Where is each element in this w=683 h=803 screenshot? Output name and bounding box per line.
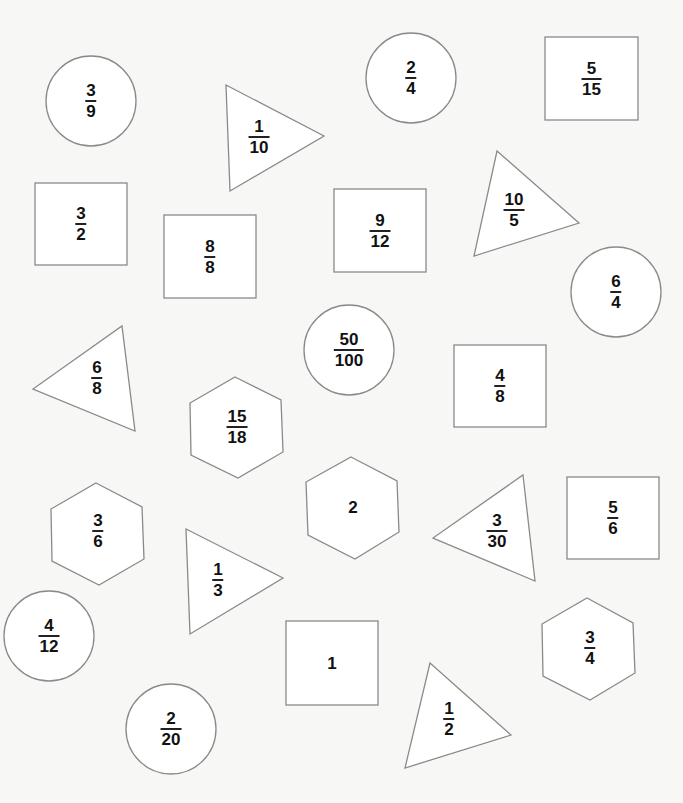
fraction-shapes-worksheet: 3911024515328891210564501006848151823633… (0, 0, 683, 803)
fraction-label: 220 (161, 710, 182, 748)
fraction-label: 1518 (227, 408, 248, 446)
denominator: 8 (204, 259, 215, 276)
fraction-label: 12 (443, 700, 454, 738)
numerator: 15 (227, 408, 248, 425)
triangle-shape (186, 529, 283, 634)
denominator: 4 (610, 294, 621, 311)
fraction-label: 50100 (334, 331, 364, 369)
numerator: 6 (91, 359, 102, 376)
fraction-label: 330 (487, 512, 508, 550)
numerator: 2 (347, 499, 358, 516)
numerator: 1 (443, 700, 454, 717)
denominator: 8 (494, 388, 505, 405)
denominator: 12 (370, 233, 391, 250)
numerator: 3 (491, 512, 502, 529)
fraction-label: 24 (405, 59, 416, 97)
numerator: 4 (43, 617, 54, 634)
fraction-label: 34 (584, 629, 595, 667)
denominator: 12 (39, 638, 60, 655)
fraction-label: 48 (494, 367, 505, 405)
triangle-shape (474, 151, 579, 256)
fraction-label: 515 (581, 60, 602, 98)
fraction-label: 110 (249, 118, 270, 156)
numerator: 3 (75, 205, 86, 222)
numerator: 5 (586, 60, 597, 77)
numerator: 3 (584, 629, 595, 646)
denominator: 2 (75, 226, 86, 243)
denominator: 9 (85, 103, 96, 120)
fraction-label: 412 (39, 617, 60, 655)
denominator: 4 (405, 80, 416, 97)
denominator: 6 (92, 533, 103, 550)
numerator: 9 (374, 212, 385, 229)
numerator: 2 (165, 710, 176, 727)
numerator: 50 (339, 331, 360, 348)
corner-mark (2, 796, 14, 800)
fraction-label: 105 (504, 191, 525, 229)
denominator: 30 (487, 533, 508, 550)
numerator: 2 (405, 59, 416, 76)
numerator: 3 (92, 512, 103, 529)
denominator: 5 (508, 212, 519, 229)
fraction-label: 36 (92, 512, 103, 550)
denominator: 20 (161, 731, 182, 748)
triangle-shape (226, 85, 324, 191)
denominator: 6 (607, 520, 618, 537)
fraction-label: 68 (91, 359, 102, 397)
denominator: 100 (334, 352, 364, 369)
numerator: 1 (212, 561, 223, 578)
shapes-layer (0, 0, 683, 803)
fraction-label: 2 (347, 499, 358, 516)
numerator: 10 (504, 191, 525, 208)
denominator: 15 (581, 81, 602, 98)
numerator: 1 (253, 118, 264, 135)
numerator: 5 (607, 499, 618, 516)
denominator: 2 (443, 721, 454, 738)
denominator: 18 (227, 429, 248, 446)
fraction-label: 912 (370, 212, 391, 250)
numerator: 3 (85, 82, 96, 99)
numerator: 4 (494, 367, 505, 384)
numerator: 6 (610, 273, 621, 290)
denominator: 8 (91, 380, 102, 397)
fraction-label: 39 (85, 82, 96, 120)
fraction-label: 88 (204, 238, 215, 276)
numerator: 8 (204, 238, 215, 255)
fraction-label: 64 (610, 273, 621, 311)
denominator: 3 (212, 582, 223, 599)
denominator: 4 (584, 650, 595, 667)
triangle-shape (33, 326, 135, 431)
denominator: 10 (249, 139, 270, 156)
fraction-label: 56 (607, 499, 618, 537)
triangle-shape (433, 475, 535, 581)
fraction-label: 32 (75, 205, 86, 243)
triangle-shape (405, 663, 511, 768)
fraction-label: 13 (212, 561, 223, 599)
numerator: 1 (326, 655, 337, 672)
fraction-label: 1 (326, 655, 337, 672)
